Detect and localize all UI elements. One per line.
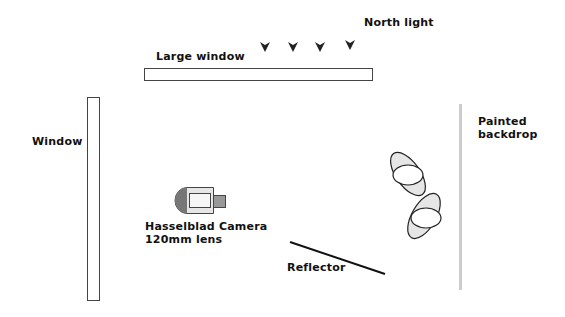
arrow-down-icon bbox=[345, 40, 355, 50]
camera-label-line2: 120mm lens bbox=[145, 234, 222, 246]
reflector-label: Reflector bbox=[287, 262, 346, 274]
painted-backdrop-label-line1: Painted bbox=[478, 116, 527, 128]
studio-diagram bbox=[0, 0, 565, 317]
north-light-label: North light bbox=[364, 17, 434, 29]
window-shape bbox=[88, 98, 100, 301]
north-light-arrows bbox=[260, 40, 355, 52]
light-1-icon bbox=[384, 147, 432, 202]
light-2-icon bbox=[401, 188, 447, 243]
painted-backdrop-label-line2: backdrop bbox=[478, 129, 537, 141]
large-window-shape bbox=[145, 69, 373, 81]
camera-icon bbox=[175, 188, 225, 214]
arrow-down-icon bbox=[315, 42, 325, 52]
large-window-label: Large window bbox=[156, 51, 245, 63]
camera-label-line1: Hasselblad Camera bbox=[145, 221, 267, 233]
arrow-down-icon bbox=[288, 42, 298, 52]
window-label: Window bbox=[32, 136, 83, 148]
painted-backdrop-shape bbox=[459, 104, 462, 290]
arrow-down-icon bbox=[260, 42, 270, 52]
